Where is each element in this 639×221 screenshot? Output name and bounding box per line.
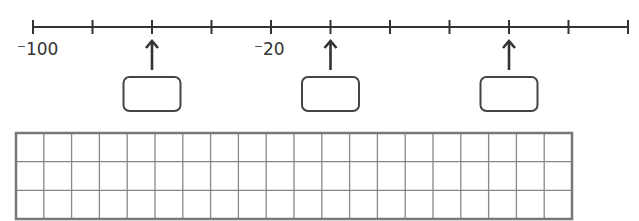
answer-box-1[interactable] bbox=[124, 77, 181, 111]
up-arrow-icon bbox=[325, 41, 337, 70]
answer-box-2[interactable] bbox=[302, 77, 359, 111]
working-grid bbox=[16, 133, 572, 219]
number-line-diagram: ⁻100 ⁻20 bbox=[0, 0, 639, 221]
tick-label-minus-100: ⁻100 bbox=[17, 39, 58, 59]
number-line bbox=[33, 20, 628, 34]
answer-box-3[interactable] bbox=[481, 77, 538, 111]
arrows bbox=[146, 41, 515, 70]
tick-label-minus-20: ⁻20 bbox=[254, 39, 285, 59]
answer-boxes bbox=[124, 77, 538, 111]
up-arrow-icon bbox=[503, 41, 515, 70]
up-arrow-icon bbox=[146, 41, 158, 70]
